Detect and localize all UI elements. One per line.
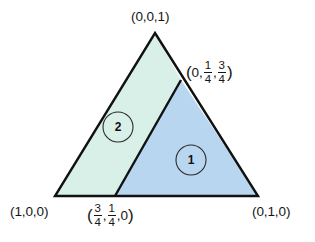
bottom-right-vertex-label: (0,1,0) <box>252 205 290 219</box>
right-third-numerator: 3 <box>218 59 226 72</box>
bottom-left-vertex-label: (1,0,0) <box>10 205 48 219</box>
right-comma-1: , <box>199 66 203 80</box>
top-vertex-label: (0,0,1) <box>131 10 169 24</box>
bottom-open-paren: ( <box>87 207 93 224</box>
bottom-first-denominator: 4 <box>94 216 102 228</box>
right-second-coord-fraction: 14 <box>204 59 212 85</box>
right-third-denominator: 4 <box>218 73 226 85</box>
bottom-edge-point-label: (34,14,0) <box>87 203 133 229</box>
right-open-paren: ( <box>186 64 192 81</box>
right-second-numerator: 1 <box>204 59 212 72</box>
right-first-coord: 0 <box>192 66 199 80</box>
region-1-label: 1 <box>181 154 201 166</box>
right-edge-point-label: (0,14,34) <box>186 60 232 86</box>
bottom-second-numerator: 1 <box>108 202 116 215</box>
region-2-label: 2 <box>108 121 128 133</box>
bottom-first-coord-fraction: 34 <box>94 202 102 228</box>
bottom-second-coord-fraction: 14 <box>108 202 116 228</box>
bottom-third-coord: 0 <box>120 209 127 223</box>
right-comma-2: , <box>213 66 217 80</box>
bottom-close-paren: ) <box>128 207 134 224</box>
right-close-paren: ) <box>227 64 233 81</box>
bottom-second-denominator: 4 <box>108 216 116 228</box>
right-second-denominator: 4 <box>204 73 212 85</box>
right-third-coord-fraction: 34 <box>218 59 226 85</box>
bottom-comma-1: , <box>103 209 107 223</box>
bottom-first-numerator: 3 <box>94 202 102 215</box>
